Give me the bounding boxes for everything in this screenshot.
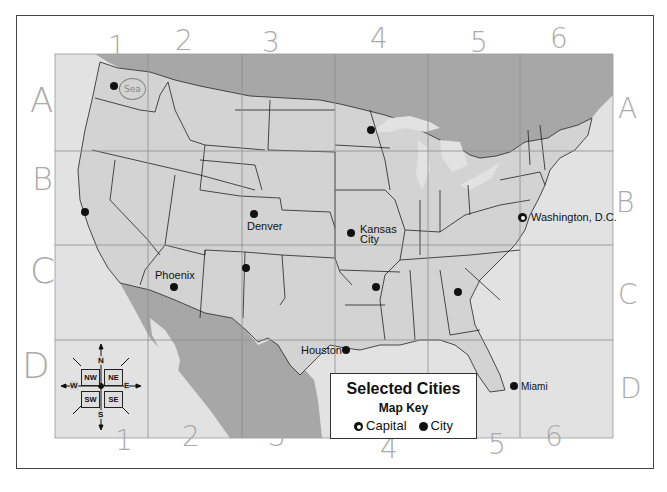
city-dot-albuquerque — [242, 264, 250, 272]
hw-row-d-left: D — [22, 345, 50, 386]
hw-row-c-right: C — [618, 278, 638, 311]
hw-col-5-bottom: 5 — [488, 428, 506, 461]
city-dot-kansas-city — [347, 229, 355, 237]
compass-nw: NW — [81, 369, 100, 386]
city-dot-denver — [250, 210, 258, 218]
hw-row-d-right: D — [620, 372, 642, 405]
compass-n: N — [98, 356, 104, 365]
city-dot-san-francisco — [81, 208, 89, 216]
capital-star-icon — [518, 213, 527, 222]
circled-note: Sea — [119, 78, 146, 100]
hw-col-3-top: 3 — [262, 26, 280, 59]
city-label-kansas-city-2: City — [360, 234, 379, 245]
compass-e: E — [124, 381, 129, 390]
hw-col-2-top: 2 — [175, 24, 193, 57]
hw-col-4-top: 4 — [370, 22, 388, 55]
city-label-houston: Houston — [301, 345, 342, 356]
hw-col-6-top: 6 — [550, 22, 568, 55]
city-dot-atlanta — [454, 288, 462, 296]
capital-star-icon — [354, 422, 363, 431]
hw-col-6-bottom: 6 — [545, 420, 563, 453]
map-title: Selected Cities — [331, 380, 476, 398]
hw-col-1-top: 1 — [108, 30, 126, 63]
legend-capital: Capital — [354, 418, 406, 433]
city-dot-miami — [510, 382, 518, 390]
hw-row-a-right: A — [618, 92, 637, 125]
hw-row-b-left: B — [32, 160, 53, 198]
legend-city: City — [419, 418, 453, 433]
city-dot-phoenix — [170, 283, 178, 291]
hw-col-5-top: 5 — [470, 26, 488, 59]
city-dot-seattle — [110, 82, 118, 90]
city-label-miami: Miami — [521, 381, 548, 392]
compass-rose: NW NE SW SE N S W E — [61, 344, 149, 430]
legend-city-label: City — [431, 418, 453, 433]
city-dot-houston — [342, 346, 350, 354]
map-key: Selected Cities Map Key Capital City — [330, 373, 477, 439]
compass-w: W — [70, 381, 78, 390]
compass-s: S — [98, 410, 103, 419]
city-dot-minneapolis — [367, 126, 375, 134]
compass-ne: NE — [104, 369, 123, 386]
hw-row-b-right: B — [616, 186, 634, 219]
compass-se: SE — [104, 391, 123, 408]
city-dot-little-rock — [372, 283, 380, 291]
hw-row-a-left: A — [30, 80, 53, 120]
city-dot-icon — [419, 422, 428, 431]
city-label-denver: Denver — [247, 221, 282, 232]
city-label-washington-dc: Washington, D.C. — [531, 212, 617, 223]
city-label-phoenix: Phoenix — [155, 270, 195, 281]
hw-col-3-bottom: 3 — [268, 420, 286, 453]
hw-col-2-bottom: 2 — [182, 420, 200, 453]
hw-row-c-left: C — [30, 250, 55, 291]
legend-capital-label: Capital — [366, 418, 406, 433]
compass-sw: SW — [81, 391, 100, 408]
map-key-title: Map Key — [331, 401, 476, 415]
